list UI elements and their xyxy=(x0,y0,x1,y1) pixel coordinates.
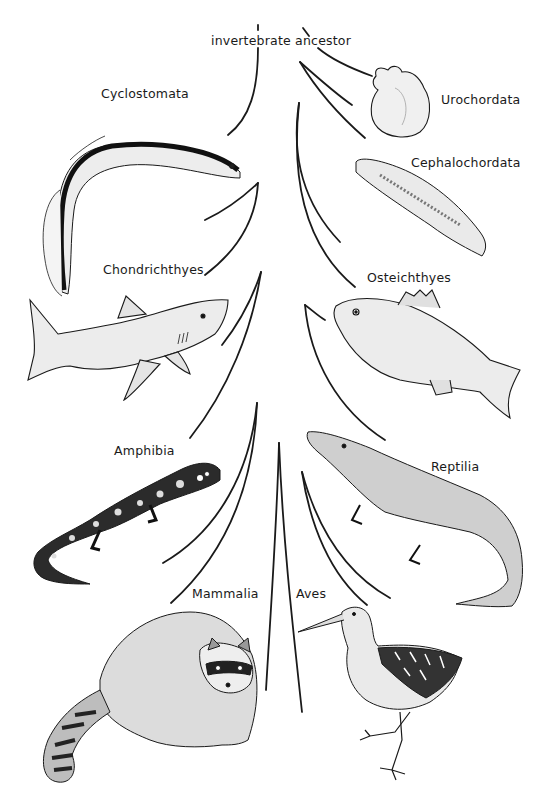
branch-amphibia xyxy=(190,272,261,438)
branch-mammalia-2 xyxy=(266,443,279,690)
branch-osteichthyes xyxy=(297,103,355,287)
branch-cyclostomata xyxy=(228,48,258,135)
bony-fish-illustration xyxy=(334,290,520,418)
branch-aves-central xyxy=(279,443,302,712)
branch-chondrichthyes xyxy=(205,183,258,275)
shark-illustration xyxy=(28,296,228,400)
phylogenetic-tree-diagram: invertebrate ancestor Cyclostomata Uroch… xyxy=(0,0,549,801)
salamander-illustration xyxy=(34,463,220,584)
taxon-label-cephalochordata: Cephalochordata xyxy=(411,155,521,170)
rail-bird-illustration xyxy=(298,607,462,780)
taxon-label-amphibia: Amphibia xyxy=(114,443,175,458)
taxon-label-osteichthyes: Osteichthyes xyxy=(367,270,451,285)
branch-cephalochordata xyxy=(300,62,365,138)
branch-cephalo-2 xyxy=(297,103,340,242)
taxon-label-chondrichthyes: Chondrichthyes xyxy=(103,262,204,277)
raccoon-illustration xyxy=(43,612,257,782)
branch-chondri-2 xyxy=(222,272,261,345)
taxon-label-urochordata: Urochordata xyxy=(441,92,520,107)
branch-cyclo-2 xyxy=(205,183,258,220)
tree-branches xyxy=(0,0,549,801)
branch-mammalia xyxy=(171,403,257,603)
lancelet-illustration xyxy=(356,159,486,256)
taxon-label-aves: Aves xyxy=(296,586,326,601)
taxon-label-mammalia: Mammalia xyxy=(192,586,259,601)
taxon-label-reptilia: Reptilia xyxy=(431,459,479,474)
sea-squirt-illustration xyxy=(371,66,429,137)
root-label: invertebrate ancestor xyxy=(211,33,351,48)
taxon-label-cyclostomata: Cyclostomata xyxy=(101,86,189,101)
alligator-illustration xyxy=(307,432,522,607)
branch-urochordata xyxy=(318,48,372,76)
branch-osteich-2 xyxy=(305,305,325,320)
